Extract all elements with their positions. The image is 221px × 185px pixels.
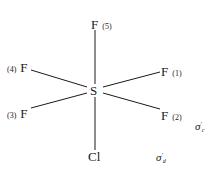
sf5cl-molecule-diagram: S F (5) F (1) F (2) (3) F (4) F Cl σ′c σ… — [0, 0, 221, 185]
sigma-d-subscript: d — [163, 158, 166, 164]
atom-f1-index: (1) — [172, 69, 181, 78]
atom-cl-symbol: Cl — [88, 149, 100, 164]
atom-f1: F (1) — [161, 63, 182, 79]
atom-f2-symbol: F — [161, 108, 168, 123]
atom-s: S — [90, 84, 97, 97]
atom-f4-symbol: F — [20, 60, 27, 75]
atom-f3-index: (3) — [7, 111, 16, 120]
atom-f5: F (5) — [91, 16, 112, 32]
bond-s-f3 — [31, 93, 87, 108]
bond-s-f1 — [103, 72, 160, 87]
bond-s-f4 — [31, 70, 87, 87]
atom-f5-symbol: F — [91, 17, 98, 32]
atom-s-symbol: S — [90, 83, 97, 98]
symmetry-label-sigma-d: σ′d — [156, 152, 166, 164]
atom-f5-index: (5) — [102, 22, 111, 31]
atom-cl: Cl — [88, 150, 100, 163]
atom-f3: (3) F — [7, 105, 28, 121]
atom-f2: F (2) — [161, 107, 182, 123]
atom-f1-symbol: F — [161, 64, 168, 79]
bond-s-f2 — [103, 93, 160, 109]
atom-f4-index: (4) — [7, 65, 16, 74]
atom-f2-index: (2) — [172, 113, 181, 122]
sigma-c-subscript: c — [202, 127, 205, 133]
symmetry-label-sigma-c: σ′c — [195, 121, 204, 133]
atom-f4: (4) F — [7, 59, 28, 75]
atom-f3-symbol: F — [20, 106, 27, 121]
